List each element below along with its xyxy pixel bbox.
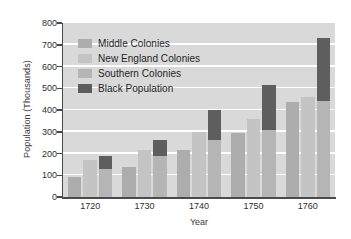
- bar-segment-southern-colonies: [317, 101, 331, 197]
- y-tick-mark: [57, 109, 62, 111]
- y-tick-label: 700: [3, 40, 57, 50]
- bar-segment-southern-colonies: [208, 140, 222, 197]
- y-tick-mark: [57, 22, 62, 24]
- bar-segment-black-population: [208, 110, 222, 140]
- legend-item-label: New England Colonies: [98, 53, 200, 64]
- bar-southern-and-black-stack: [208, 110, 222, 197]
- bar-middle-colonies: [231, 133, 245, 197]
- x-tick-label: 1750: [226, 201, 280, 211]
- bar-segment-black-population: [262, 85, 276, 130]
- y-tick-mark: [57, 44, 62, 46]
- y-tick-mark: [57, 175, 62, 177]
- y-tick-label: 800: [3, 18, 57, 28]
- legend-swatch-icon: [78, 54, 92, 63]
- legend-item-label: Southern Colonies: [98, 68, 181, 79]
- legend-item: New England Colonies: [78, 51, 200, 66]
- y-tick-label: 0: [3, 192, 57, 202]
- chart-figure: Population (Thousands) 01002003004005006…: [0, 0, 351, 239]
- bar-southern-and-black-stack: [99, 156, 113, 197]
- y-tick-label: 300: [3, 127, 57, 137]
- bar-southern-and-black-stack: [317, 38, 331, 197]
- bar-segment-southern-colonies: [262, 130, 276, 197]
- y-tick-label: 500: [3, 83, 57, 93]
- bar-middle-colonies: [286, 102, 300, 197]
- x-tick-label: 1760: [281, 201, 335, 211]
- legend-item-label: Black Population: [98, 83, 173, 94]
- y-tick-mark: [57, 66, 62, 68]
- bar-segment-black-population: [99, 156, 113, 169]
- bar-new-england-colonies: [138, 150, 152, 197]
- y-tick-mark: [57, 88, 62, 90]
- y-tick-mark: [57, 131, 62, 133]
- y-tick-mark: [57, 196, 62, 198]
- legend-swatch-icon: [78, 39, 92, 48]
- bar-segment-southern-colonies: [99, 169, 113, 197]
- y-tick-label: 100: [3, 170, 57, 180]
- legend-swatch-icon: [78, 69, 92, 78]
- bar-new-england-colonies: [247, 119, 261, 197]
- bar-middle-colonies: [68, 177, 82, 197]
- bar-segment-black-population: [317, 38, 331, 102]
- x-tick-label: 1720: [63, 201, 117, 211]
- bar-middle-colonies: [177, 150, 191, 197]
- x-axis-title: Year: [63, 217, 335, 227]
- y-tick-mark: [57, 153, 62, 155]
- legend-item-label: Middle Colonies: [98, 38, 170, 49]
- bar-new-england-colonies: [192, 132, 206, 197]
- bar-new-england-colonies: [83, 160, 97, 197]
- y-tick-label: 400: [3, 105, 57, 115]
- legend-swatch-icon: [78, 84, 92, 93]
- legend-item: Middle Colonies: [78, 36, 200, 51]
- x-axis-line: [62, 197, 336, 199]
- y-tick-label: 600: [3, 62, 57, 72]
- bar-segment-southern-colonies: [153, 156, 167, 197]
- bar-middle-colonies: [122, 167, 136, 197]
- bar-southern-and-black-stack: [153, 140, 167, 197]
- x-tick-label: 1730: [118, 201, 172, 211]
- legend-item: Black Population: [78, 81, 200, 96]
- x-tick-label: 1740: [172, 201, 226, 211]
- bar-segment-black-population: [153, 140, 167, 156]
- chart-legend: Middle ColoniesNew England ColoniesSouth…: [78, 36, 200, 96]
- y-tick-label: 200: [3, 149, 57, 159]
- bar-new-england-colonies: [301, 97, 315, 197]
- legend-item: Southern Colonies: [78, 66, 200, 81]
- bar-southern-and-black-stack: [262, 85, 276, 197]
